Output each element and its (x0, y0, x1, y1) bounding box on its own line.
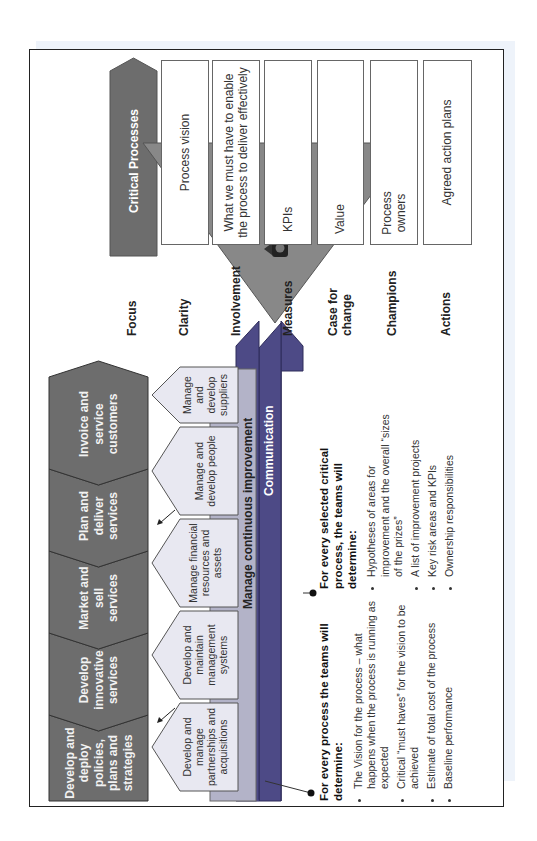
support-process-3: Manage financial resources and assets (175, 521, 235, 605)
support-process-1: Develop and manage partnerships and acqu… (175, 705, 235, 789)
support-process-4: Manage and develop people (175, 429, 235, 513)
box-actions: Agreed action plans (423, 60, 472, 245)
note-item: Baseline performance (442, 596, 455, 789)
core-process-2: Develop innovative services (55, 645, 143, 715)
value-label: Value (333, 204, 347, 234)
diagram-rotated: Critical Processes Process vision What w… (0, 0, 537, 841)
core-process-3: Market and sell services (55, 563, 143, 633)
notes-critical-process: For every selected critical process, the… (318, 414, 460, 589)
note-item: Ownership responsibilities (443, 414, 456, 577)
support-process-5: Manage and develop suppliers (175, 369, 235, 421)
note-item: Estimate of total cost of the process (425, 596, 438, 789)
core-process-1: Develop and deploy policies, plans and s… (55, 727, 143, 799)
dot-critical-process (310, 590, 317, 597)
notes-every-process: For every process the teams will determi… (318, 596, 459, 801)
box-involvement: What we must have to enable the process … (212, 60, 260, 245)
support-process-2: Develop and maintain management systems (175, 613, 235, 697)
core-process-4: Plan and deliver services (55, 481, 143, 551)
box-kpis: KPIs (264, 60, 312, 245)
label-champions: Champions (386, 256, 400, 336)
band-improvement-label: Manage continuous improvement (241, 418, 255, 609)
label-clarity: Clarity (178, 256, 192, 336)
note-item: Key risk areas and KPIs (426, 414, 439, 577)
label-focus: Focus (126, 256, 140, 336)
label-case-for-change: Case for change (327, 286, 355, 336)
note-item: A list of improvement projects (409, 414, 422, 577)
label-measures: Measures (282, 256, 296, 336)
band-values-label: Values and policies (285, 399, 299, 510)
label-actions: Actions (440, 256, 454, 336)
label-involvement: Involvement (230, 256, 244, 336)
note-item: Hypotheses of areas for improvement and … (365, 414, 404, 577)
band-communication-label: Communication (262, 405, 276, 496)
dot-every-process (308, 790, 315, 797)
critical-processes-header: Critical Processes (110, 71, 157, 251)
band-mission (281, 321, 303, 801)
notes-critical-process-title: For every selected critical process, the… (318, 414, 359, 589)
notes-every-process-title: For every process the teams will determi… (318, 596, 346, 801)
box-value: Value (317, 60, 364, 245)
note-item: Critical “must haves” for the vision to … (395, 596, 421, 789)
core-process-5: Invoice and service customers (55, 381, 143, 467)
box-process-owners: Process owners (370, 60, 418, 245)
process-owners-label: Process owners (380, 188, 409, 238)
box-process-vision: Process vision (161, 60, 209, 245)
note-item: The Vision for the process – what happen… (352, 596, 391, 789)
kpis-label: KPIs (281, 207, 295, 232)
